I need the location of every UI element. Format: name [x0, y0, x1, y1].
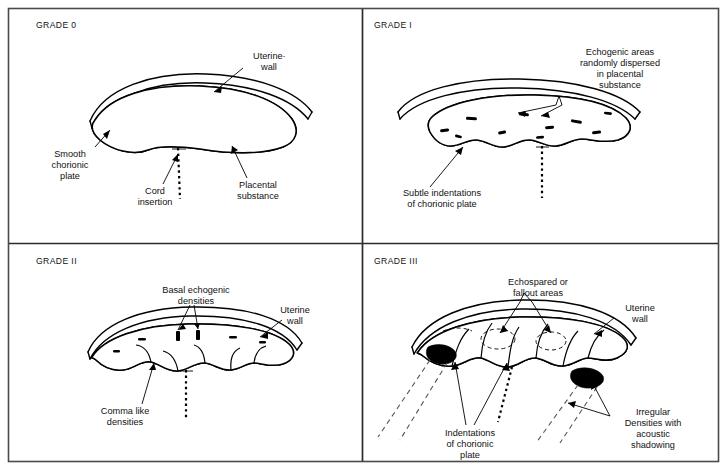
svg-text:Indentations: Indentations: [445, 428, 495, 438]
svg-text:Basal echogenic: Basal echogenic: [162, 285, 230, 295]
svg-text:Comma like: Comma like: [101, 406, 150, 416]
leader-indentations-a-grade-3: [455, 362, 466, 425]
svg-text:shadowing: shadowing: [631, 440, 675, 450]
svg-text:chorionic: chorionic: [52, 160, 89, 170]
panel-heading-grade-2: GRADE II: [36, 256, 77, 266]
panel-grade-3: GRADE III: [374, 256, 681, 460]
label-comma-like-densities-grade-2: Comma like densities: [101, 406, 150, 427]
svg-text:Irregular: Irregular: [636, 407, 670, 417]
label-cord-insertion-grade-0: Cord insertion: [138, 186, 173, 207]
svg-text:of chorionic: of chorionic: [447, 439, 494, 449]
svg-text:densities: densities: [107, 417, 144, 427]
panel-grade-0: GRADE 0 Uterin: [36, 20, 312, 207]
svg-text:insertion: insertion: [138, 197, 173, 207]
svg-text:substance: substance: [599, 80, 641, 90]
cord-insertion-grade-0: [178, 148, 180, 199]
label-subtle-indentations-grade-1: Subtle indentations of chorionic plate: [403, 188, 482, 209]
svg-text:Placental: Placental: [239, 180, 277, 190]
svg-text:wall: wall: [631, 314, 648, 324]
svg-text:Uterine·: Uterine·: [253, 51, 286, 61]
svg-text:Densities with: Densities with: [625, 418, 682, 428]
panel-heading-grade-0: GRADE 0: [36, 20, 77, 30]
arrowhead-cord-insertion-grade-0: [172, 154, 178, 162]
label-basal-echogenic-densities-grade-2: Basal echogenic densities: [162, 285, 230, 306]
arrowhead-subtle-indentations-grade-1: [455, 147, 463, 155]
svg-text:Echospared or: Echospared or: [508, 277, 568, 287]
placenta-outline-grade-1: [428, 95, 630, 147]
leader-indentations-b-grade-3: [474, 363, 507, 425]
svg-text:densities: densities: [178, 296, 215, 306]
svg-text:wall: wall: [260, 62, 277, 72]
label-irregular-densities-grade-3: Irregular Densities with acoustic shadow…: [625, 407, 682, 450]
placenta-outline-grade-0: [92, 86, 296, 153]
svg-text:substance: substance: [237, 191, 279, 201]
label-uterine-wall-grade-0: Uterine· wall: [253, 51, 286, 72]
svg-text:plate: plate: [460, 450, 480, 460]
svg-text:plate: plate: [60, 171, 80, 181]
svg-text:fallout areas: fallout areas: [513, 288, 563, 298]
placental-grading-figure: GRADE 0 Uterin: [0, 0, 727, 470]
svg-text:randomly dispersed: randomly dispersed: [580, 58, 660, 68]
svg-text:Uterine: Uterine: [625, 303, 655, 313]
svg-text:Subtle indentations: Subtle indentations: [403, 188, 482, 198]
label-placental-substance-grade-0: Placental substance: [237, 180, 279, 201]
svg-text:of chorionic plate: of chorionic plate: [407, 199, 476, 209]
svg-text:acoustic: acoustic: [636, 429, 670, 439]
label-smooth-chorionic-plate-grade-0: Smooth chorionic plate: [52, 149, 89, 181]
label-uterine-wall-grade-2: Uterine wall: [280, 305, 310, 326]
label-uterine-wall-grade-3: Uterine wall: [625, 303, 655, 324]
svg-text:Uterine: Uterine: [280, 305, 310, 315]
svg-text:Echogenic areas: Echogenic areas: [586, 47, 655, 57]
panel-grade-1: GRADE I: [374, 20, 660, 209]
label-indentations-chorionic-plate-grade-3: Indentations of chorionic plate: [445, 428, 495, 460]
arrowhead-irregular-b-grade-3: [568, 401, 576, 408]
panel-heading-grade-1: GRADE I: [374, 20, 412, 30]
panel-grade-2: GRADE II: [36, 256, 310, 427]
label-echogenic-areas-grade-1: Echogenic areas randomly dispersed in pl…: [580, 47, 660, 90]
svg-text:in placental: in placental: [597, 69, 643, 79]
svg-text:Cord: Cord: [145, 186, 165, 196]
label-echospared-fallout-areas-grade-3: Echospared or fallout areas: [508, 277, 568, 298]
svg-text:wall: wall: [286, 316, 303, 326]
panel-heading-grade-3: GRADE III: [374, 256, 418, 266]
svg-text:Smooth: Smooth: [54, 149, 86, 159]
